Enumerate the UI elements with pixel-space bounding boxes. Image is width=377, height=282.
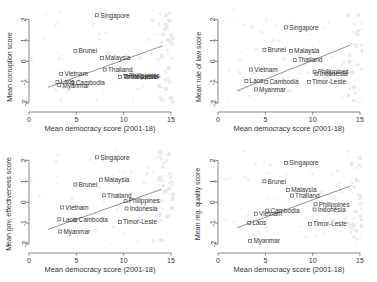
x-tick-label: 0 [27, 257, 31, 264]
data-point-label: Cambodia [79, 216, 109, 223]
x-tick-label: 15 [167, 116, 175, 123]
data-point-marker [74, 183, 77, 186]
x-tick-label: 0 [216, 116, 220, 123]
x-tick-label: 10 [309, 116, 317, 123]
data-point-label: Timor-Leste [313, 220, 347, 227]
data-point-label: Malaysia [294, 47, 320, 55]
data-point-label: Malaysia [104, 176, 130, 184]
data-point-label: Thailand [295, 192, 320, 199]
data-point-marker [99, 178, 102, 181]
x-tick-label: 10 [309, 257, 317, 264]
data-point-label: Myanmar [63, 228, 91, 236]
data-point-label: Singapore [289, 24, 319, 32]
y-axis-title: Mean corruption score [4, 19, 16, 115]
data-point-label: Myanmar [253, 237, 281, 245]
chart-panel-2: 210-1-2051015SingaporeMalaysiaBruneiThai… [0, 141, 188, 282]
data-point-label: Vietnam [259, 210, 282, 217]
data-point-marker [59, 230, 62, 233]
y-tick-label: 0 [21, 59, 28, 63]
data-point-label: Brunei [268, 46, 286, 53]
x-tick-label: 0 [27, 116, 31, 123]
y-tick-label: 1 [210, 38, 217, 42]
data-point-marker [293, 59, 296, 62]
background-speckle [28, 8, 175, 104]
data-point-label: Singapore [289, 159, 319, 167]
data-point-marker [314, 203, 317, 206]
data-point-marker [289, 49, 292, 52]
data-point-label: Laos [252, 219, 266, 226]
data-point-label: Timor-Leste [123, 73, 157, 80]
chart-panel-1: 210-1-2051015SingaporeBruneiMalaysiaThai… [189, 0, 377, 141]
data-point-label: Indonesia [130, 205, 158, 212]
y-tick-label: 2 [210, 17, 217, 21]
x-tick-label: 5 [74, 257, 78, 264]
data-point-label: Indonesia [320, 70, 348, 77]
data-point-marker [285, 26, 288, 29]
data-point-label: Timor-Leste [312, 78, 346, 85]
data-points: SingaporeMalaysiaBruneiThailandPhilippin… [58, 154, 160, 236]
y-tick-label: -1 [210, 79, 217, 85]
y-tick-label: -1 [21, 79, 28, 85]
y-axis-title: Mean rule of law score [193, 19, 205, 115]
data-point-label: Malaysia [105, 54, 131, 62]
x-tick-label: 5 [263, 257, 267, 264]
data-point-marker [118, 221, 121, 224]
data-point-marker [263, 48, 266, 51]
scatter-plot-figure: 210-1-2051015SingaporeBruneiMalaysiaThai… [0, 0, 377, 282]
data-point-marker [307, 81, 310, 84]
axes: 210-1-2051015 [21, 17, 175, 123]
data-point-label: Singapore [100, 12, 130, 20]
data-point-marker [287, 189, 290, 192]
data-point-marker [61, 206, 64, 209]
data-point-label: Myanmar [259, 86, 287, 94]
data-point-label: Timor-Leste [123, 218, 157, 225]
y-tick-label: -2 [21, 100, 28, 106]
y-axis-title: Mean reg. quality score [193, 156, 213, 252]
data-point-label: Brunei [79, 47, 97, 54]
data-point-marker [263, 180, 266, 183]
data-point-label: Vietnam [254, 66, 277, 73]
data-point-marker [254, 88, 257, 91]
x-tick-label: 5 [263, 116, 267, 123]
data-point-marker [290, 194, 293, 197]
x-tick-label: 10 [120, 257, 128, 264]
data-point-label: Thailand [298, 56, 323, 63]
data-point-marker [102, 194, 105, 197]
data-point-marker [254, 212, 257, 215]
data-point-marker [96, 156, 99, 159]
data-point-marker [285, 161, 288, 164]
data-point-label: Brunei [268, 178, 286, 185]
plot-canvas: 210-1-2051015SingaporeBruneiMalaysiaThai… [189, 0, 377, 141]
x-axis-title: Mean democracy score (2001-18) [29, 124, 171, 133]
plot-canvas: 210-1-2051015SingaporeMalaysiaBruneiThai… [0, 141, 188, 282]
data-point-marker [313, 208, 316, 211]
chart-panel-3: 210-1-2051015SingaporeBruneiMalaysiaThai… [189, 141, 377, 282]
data-point-label: Cambodia [269, 78, 299, 85]
data-point-marker [58, 218, 61, 221]
y-tick-label: -2 [210, 100, 217, 106]
data-point-label: Laos [250, 77, 264, 84]
data-point-label: Singapore [100, 154, 130, 162]
y-tick-label: 2 [21, 17, 28, 21]
x-tick-label: 10 [120, 116, 128, 123]
x-axis-title: Mean democracy score (2001-18) [218, 124, 360, 133]
data-point-marker [100, 57, 103, 60]
x-tick-label: 0 [216, 257, 220, 264]
data-points: SingaporeBruneiMalaysiaThailandVietnamPh… [56, 12, 160, 90]
data-point-marker [74, 49, 77, 52]
data-point-marker [265, 81, 268, 84]
data-point-marker [60, 72, 63, 75]
plot-canvas: 210-1-2051015SingaporeBruneiMalaysiaThai… [0, 0, 188, 141]
x-tick-label: 5 [74, 116, 78, 123]
data-point-label: Indonesia [318, 206, 346, 213]
y-axis-title: Mean gov. effectiveness score [4, 156, 24, 252]
data-points: SingaporeBruneiMalaysiaThailandPhilippin… [248, 159, 350, 245]
data-point-label: Brunei [79, 181, 97, 188]
y-tick-label: 0 [210, 59, 217, 63]
data-point-marker [249, 239, 252, 242]
chart-panel-0: 210-1-2051015SingaporeBruneiMalaysiaThai… [0, 0, 188, 141]
data-point-marker [96, 14, 99, 17]
data-point-label: Vietnam [65, 204, 88, 211]
data-point-marker [125, 207, 128, 210]
plot-canvas: 210-1-2051015SingaporeBruneiMalaysiaThai… [189, 141, 377, 282]
